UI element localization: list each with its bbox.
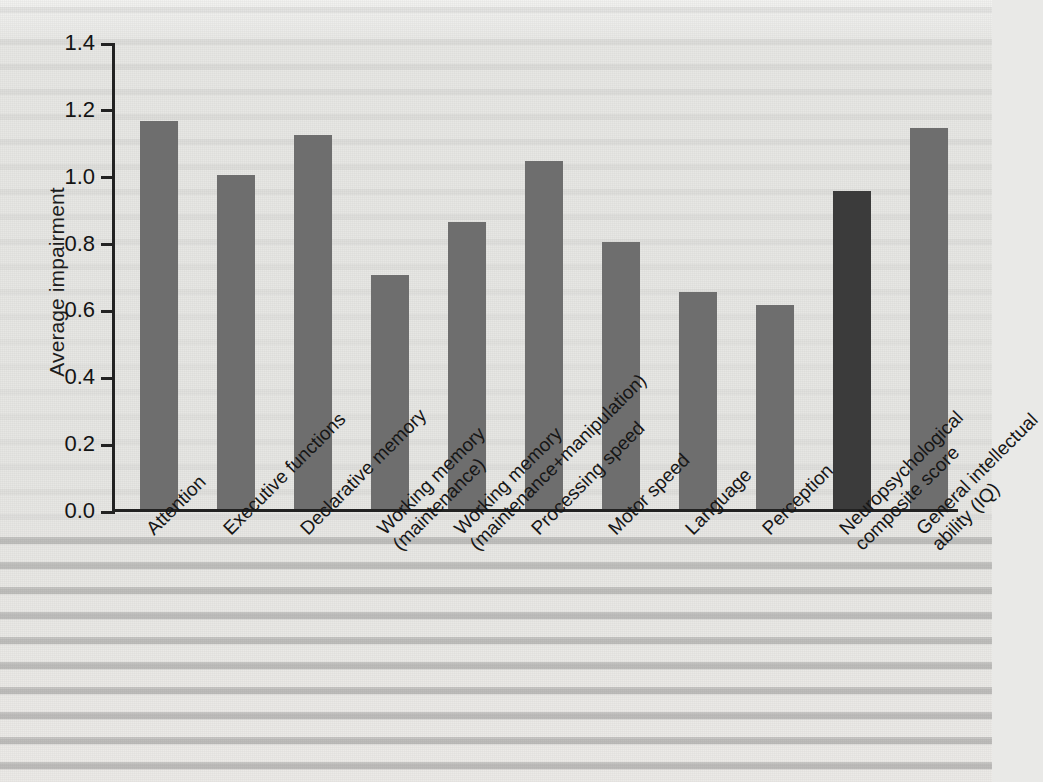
- y-tick-label: 1.2: [64, 97, 95, 123]
- y-tick-label: 0.4: [64, 364, 95, 390]
- y-tick-mark: [101, 43, 115, 46]
- bar-8: [756, 305, 794, 509]
- y-tick-label: 1.4: [64, 30, 95, 56]
- y-tick-label: 0.6: [64, 297, 95, 323]
- y-tick-label: 0.8: [64, 231, 95, 257]
- y-tick-label: 1.0: [64, 164, 95, 190]
- y-tick-mark: [101, 377, 115, 380]
- y-tick-label: 0.0: [64, 498, 95, 524]
- y-tick-mark: [101, 176, 115, 179]
- bar-7: [679, 292, 717, 509]
- y-tick-mark: [101, 310, 115, 313]
- bar-0: [140, 121, 178, 509]
- y-tick-label: 0.2: [64, 431, 95, 457]
- bar-9: [833, 191, 871, 509]
- y-tick-mark: [101, 243, 115, 246]
- y-tick-mark: [101, 109, 115, 112]
- bar-1: [217, 175, 255, 509]
- y-tick-mark: [101, 444, 115, 447]
- y-tick-mark: [101, 511, 115, 514]
- x-axis-labels: AttentionExecutive functionsDeclarative …: [112, 516, 992, 782]
